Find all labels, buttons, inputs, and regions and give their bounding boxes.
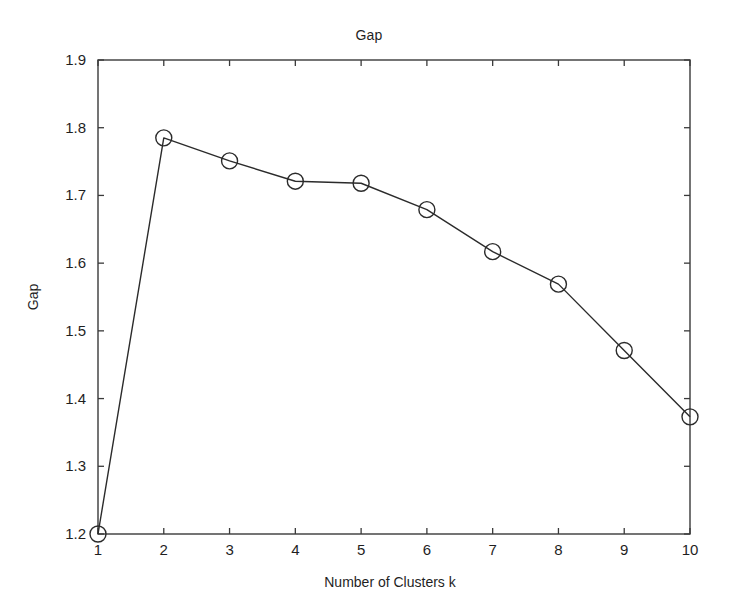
y-tick-label: 1.3	[65, 457, 86, 474]
axes-box	[98, 60, 690, 534]
x-tick-label: 7	[488, 541, 496, 558]
x-tick-label: 5	[357, 541, 365, 558]
y-tick-label: 1.5	[65, 322, 86, 339]
x-tick-label: 3	[225, 541, 233, 558]
x-tick-label: 4	[291, 541, 299, 558]
data-series-gap	[90, 130, 698, 542]
y-axis-tick-labels: 1.21.31.41.51.61.71.81.9	[65, 51, 86, 542]
y-tick-label: 1.2	[65, 525, 86, 542]
y-axis-title: Gap	[25, 284, 41, 311]
y-tick-label: 1.9	[65, 51, 86, 68]
series-line-gap	[98, 138, 690, 534]
x-tick-label: 9	[620, 541, 628, 558]
x-tick-label: 10	[682, 541, 699, 558]
x-tick-label: 1	[94, 541, 102, 558]
x-axis-tick-labels: 12345678910	[94, 541, 699, 558]
x-tick-label: 8	[554, 541, 562, 558]
y-tick-label: 1.7	[65, 186, 86, 203]
x-tick-label: 6	[423, 541, 431, 558]
y-tick-label: 1.6	[65, 254, 86, 271]
y-tick-label: 1.8	[65, 119, 86, 136]
gap-statistic-line-chart: 12345678910 1.21.31.41.51.61.71.81.9 Num…	[0, 0, 738, 604]
axes-frame	[98, 60, 690, 534]
y-tick-label: 1.4	[65, 390, 86, 407]
figure-canvas: Gap 12345678910 1.21.31.41.51.61.71.81.9…	[0, 0, 738, 604]
x-axis-title: Number of Clusters k	[324, 574, 456, 590]
x-tick-label: 2	[160, 541, 168, 558]
axis-ticks	[98, 60, 690, 534]
